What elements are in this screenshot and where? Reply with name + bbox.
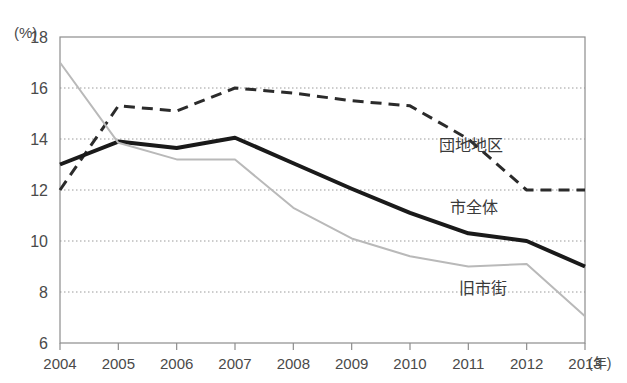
y-tick-label-14: 14 bbox=[30, 131, 48, 148]
x-tick-label-2010: 2010 bbox=[393, 355, 426, 372]
x-tick-label-2006: 2006 bbox=[160, 355, 193, 372]
x-tick-label-2009: 2009 bbox=[335, 355, 368, 372]
y-tick-label-10: 10 bbox=[30, 233, 48, 250]
y-tick-label-8: 8 bbox=[39, 284, 48, 301]
x-tick-label-2008: 2008 bbox=[277, 355, 310, 372]
x-tick-label-2012: 2012 bbox=[510, 355, 543, 372]
x-axis-unit-label: (年) bbox=[588, 355, 611, 371]
y-tick-label-16: 16 bbox=[30, 80, 48, 97]
x-tick-label-2007: 2007 bbox=[218, 355, 251, 372]
x-tick-label-2005: 2005 bbox=[102, 355, 135, 372]
x-tick-label-2011: 2011 bbox=[452, 355, 484, 372]
chart-container: (%) 181614121086 20042005200620072008200… bbox=[0, 0, 627, 383]
series-label-市全体: 市全体 bbox=[450, 199, 498, 216]
series-label-団地地区: 団地地区 bbox=[439, 137, 503, 154]
y-tick-label-6: 6 bbox=[39, 335, 48, 352]
y-tick-label-18: 18 bbox=[30, 29, 48, 46]
y-tick-label-12: 12 bbox=[30, 182, 48, 199]
x-tick-label-2004: 2004 bbox=[43, 355, 76, 372]
line-chart: (%) 181614121086 20042005200620072008200… bbox=[0, 0, 627, 383]
series-label-旧市街: 旧市街 bbox=[459, 280, 507, 297]
